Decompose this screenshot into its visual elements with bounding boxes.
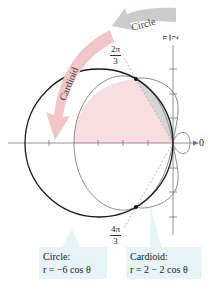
cardioid-callout-pointer	[150, 205, 162, 248]
intersection-point-lower	[134, 205, 138, 209]
cardioid-callout-equation: r = 2 − 2 cos θ	[130, 263, 198, 276]
intersection-point-upper	[134, 77, 138, 81]
pi-over-2-label: π 2	[161, 34, 180, 40]
circle-callout-pointer	[62, 228, 80, 248]
ray-4pi-3	[124, 143, 173, 228]
circle-callout-title: Circle:	[43, 250, 103, 263]
cardioid-callout: Cardioid: r = 2 − 2 cos θ	[126, 247, 202, 279]
cardioid-callout-title: Cardioid:	[130, 250, 198, 263]
circle-callout-equation: r = −6 cos θ	[43, 263, 103, 276]
two-pi-over-3-label: 2π 3	[110, 45, 121, 66]
polar-axis-label: 0	[199, 138, 204, 148]
circle-callout: Circle: r = −6 cos θ	[39, 247, 107, 279]
four-pi-over-3-label: 4π 3	[110, 225, 121, 246]
